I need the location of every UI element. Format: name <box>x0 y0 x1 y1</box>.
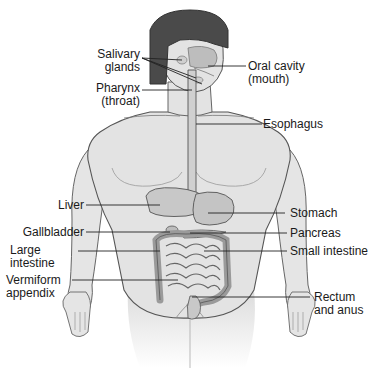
label-oral-cavity: Oral cavity (mouth) <box>248 60 305 85</box>
label-rectum-anus: Rectum and anus <box>314 291 363 316</box>
label-gallbladder: Gallbladder <box>6 226 84 239</box>
rectum <box>187 296 200 319</box>
label-large-intestine: Large intestine <box>10 244 76 269</box>
label-stomach: Stomach <box>290 207 337 220</box>
label-salivary-glands: Salivary glands <box>90 48 140 73</box>
label-pharynx: Pharynx (throat) <box>88 82 140 107</box>
esophagus <box>188 70 196 196</box>
digestive-system-diagram: Salivary glands Oral cavity (mouth) Phar… <box>0 0 378 368</box>
label-pancreas: Pancreas <box>290 227 341 240</box>
label-small-intestine: Small intestine <box>290 245 368 258</box>
label-liver: Liver <box>40 199 84 212</box>
label-esophagus: Esophagus <box>263 118 323 131</box>
stomach <box>193 192 234 225</box>
label-vermiform-appendix: Vermiform appendix <box>6 274 72 299</box>
